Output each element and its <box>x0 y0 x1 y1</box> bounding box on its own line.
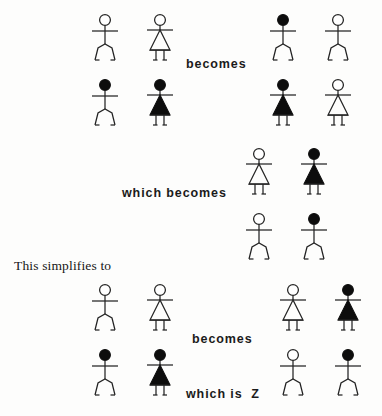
stick-figure-filled-female <box>133 73 188 138</box>
stick-figure-open-female <box>311 73 366 138</box>
stick-figure-filled-male <box>78 73 133 138</box>
stick-figure-filled-female <box>133 343 188 408</box>
stick-figure-filled-female <box>256 73 311 138</box>
stick-figure-filled-male <box>287 207 342 272</box>
stick-figure-filled-male <box>256 8 311 73</box>
stick-figure-open-female <box>266 278 321 343</box>
stick-figure-open-female <box>133 8 188 73</box>
top-left-figure-group <box>78 8 188 138</box>
becomes-label-top: becomes <box>186 57 247 71</box>
stick-figure-filled-male <box>321 343 376 408</box>
becomes-label-bottom: becomes <box>192 332 253 346</box>
which-becomes-label: which becomes <box>122 186 227 200</box>
stick-figure-open-male <box>232 207 287 272</box>
top-right-figure-group <box>256 8 366 138</box>
middle-figure-group <box>232 142 342 272</box>
stick-figure-open-male <box>78 278 133 343</box>
stick-figure-open-female <box>133 278 188 343</box>
stick-figure-open-female <box>232 142 287 207</box>
stick-figure-open-male <box>311 8 366 73</box>
bottom-right-figure-group <box>266 278 376 408</box>
stick-figure-filled-male <box>78 343 133 408</box>
bottom-left-figure-group <box>78 278 188 408</box>
stick-figure-filled-female <box>287 142 342 207</box>
stick-figure-open-male <box>78 8 133 73</box>
this-simplifies-to-label: This simplifies to <box>14 258 111 274</box>
stick-figure-filled-female <box>321 278 376 343</box>
stick-figure-open-male <box>266 343 321 408</box>
which-is-z-label: which is Z <box>186 387 260 401</box>
